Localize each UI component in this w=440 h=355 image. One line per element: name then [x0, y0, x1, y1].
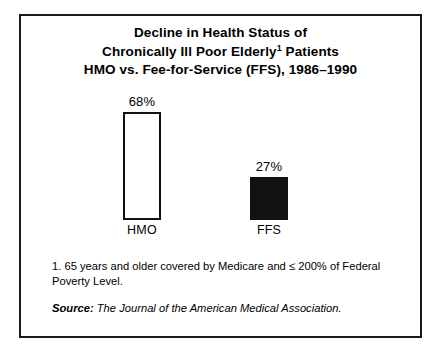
source-text: The Journal of the American Medical Asso…	[94, 302, 342, 314]
bar-group-ffs: 27% FFS	[224, 159, 314, 238]
chart-title-line-1: Decline in Health Status of	[21, 24, 420, 43]
figure-frame: Decline in Health Status of Chronically …	[19, 14, 422, 338]
bar-shell-ffs	[224, 177, 314, 220]
chart-title: Decline in Health Status of Chronically …	[21, 24, 420, 80]
chart-title-line-2-suffix: Patients	[282, 44, 339, 59]
bar-ffs	[250, 177, 288, 220]
chart-title-line-2-prefix: Chronically Ill Poor Elderly	[102, 44, 277, 59]
bar-label-hmo: HMO	[97, 222, 187, 238]
bar-label-ffs: FFS	[224, 222, 314, 238]
chart-title-line-2: Chronically Ill Poor Elderly1 Patients	[21, 43, 420, 62]
source-line: Source: The Journal of the American Medi…	[52, 301, 392, 316]
bar-hmo	[123, 112, 161, 220]
footnote-text: 1. 65 years and older covered by Medicar…	[52, 259, 392, 288]
bar-group-hmo: 68% HMO	[97, 94, 187, 238]
chart-title-line-3: HMO vs. Fee-for-Service (FFS), 1986–1990	[21, 61, 420, 80]
plot-area: 68% HMO 27% FFS	[21, 98, 420, 238]
source-label: Source:	[52, 302, 94, 314]
footnote-block: 1. 65 years and older covered by Medicar…	[52, 259, 392, 327]
bar-value-ffs: 27%	[224, 159, 314, 175]
bar-shell-hmo	[97, 112, 187, 220]
bar-value-hmo: 68%	[97, 94, 187, 110]
